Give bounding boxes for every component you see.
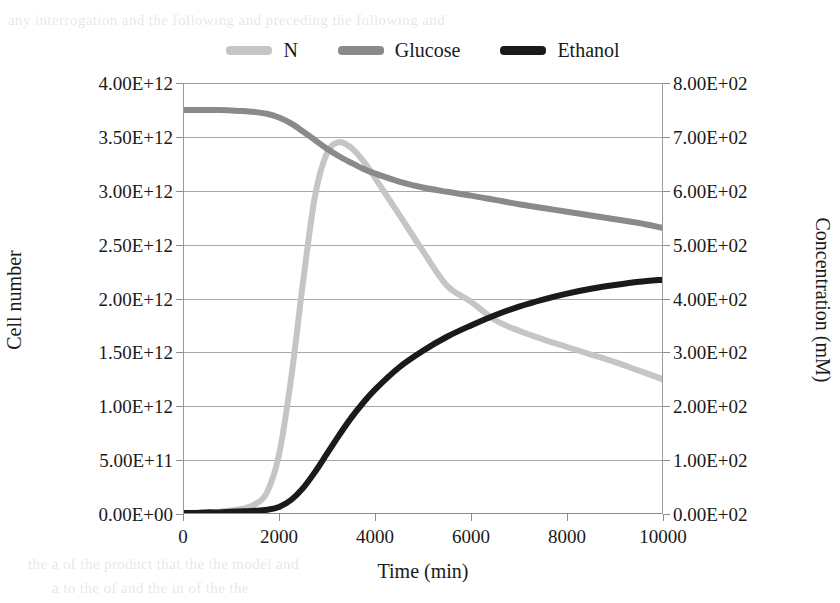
x-axis-tick	[471, 514, 472, 521]
y-axis-right-tick-label: 7.00E+02	[673, 128, 803, 147]
y-axis-left-tick-label: 1.00E+12	[53, 397, 173, 416]
y-axis-left-title: Cell number	[3, 250, 26, 349]
y-axis-right-tick	[663, 514, 670, 515]
y-axis-left-tick	[176, 245, 183, 246]
x-axis-tick	[183, 514, 184, 521]
x-axis-title: Time (min)	[183, 560, 663, 583]
y-axis-left-tick	[176, 191, 183, 192]
x-axis-tick	[375, 514, 376, 521]
x-axis-tick-label: 0	[138, 527, 228, 546]
y-axis-left-tick-label: 4.00E+12	[53, 74, 173, 93]
y-axis-left-tick-label: 3.50E+12	[53, 128, 173, 147]
legend-item-glucose[interactable]: Glucose	[338, 40, 461, 60]
y-axis-left-tick	[176, 514, 183, 515]
y-axis-left-tick	[176, 137, 183, 138]
series-curves	[183, 83, 663, 514]
y-axis-right-tick	[663, 245, 670, 246]
plot-area	[183, 83, 663, 514]
x-axis-tick-label: 8000	[522, 527, 612, 546]
y-axis-left-tick-label: 1.50E+12	[53, 343, 173, 362]
legend-swatch-glucose	[338, 46, 384, 55]
series-line-n	[183, 142, 663, 513]
y-axis-right-tick-label: 0.00E+02	[673, 505, 803, 524]
page-showthrough-top: any interrogation and the following and …	[8, 12, 445, 29]
legend-swatch-ethanol	[500, 46, 546, 55]
y-axis-left-tick-label: 5.00E+11	[53, 451, 173, 470]
y-axis-left-tick-label: 3.00E+12	[53, 182, 173, 201]
y-axis-left-tick	[176, 352, 183, 353]
y-axis-right-tick-label: 6.00E+02	[673, 182, 803, 201]
y-axis-right-tick-label: 8.00E+02	[673, 74, 803, 93]
y-axis-right-tick	[663, 83, 670, 84]
y-axis-left-tick-label: 0.00E+00	[53, 505, 173, 524]
y-axis-left-tick	[176, 406, 183, 407]
legend-item-n[interactable]: N	[226, 40, 297, 60]
y-axis-right-tick	[663, 406, 670, 407]
y-axis-right-title: Concentration (mM)	[811, 218, 834, 383]
y-axis-right-tick	[663, 299, 670, 300]
chart-legend: NGlucoseEthanol	[183, 36, 663, 64]
x-axis-tick	[279, 514, 280, 521]
y-axis-right-tick-label: 3.00E+02	[673, 343, 803, 362]
y-axis-right-tick	[663, 352, 670, 353]
y-axis-left-tick-label: 2.00E+12	[53, 290, 173, 309]
legend-label-n: N	[283, 40, 297, 60]
y-axis-right-tick	[663, 460, 670, 461]
series-line-ethanol	[183, 280, 663, 513]
legend-label-glucose: Glucose	[395, 40, 461, 60]
y-axis-right-tick-label: 1.00E+02	[673, 451, 803, 470]
y-axis-right-tick-label: 5.00E+02	[673, 236, 803, 255]
y-axis-left-tick-label: 2.50E+12	[53, 236, 173, 255]
legend-swatch-n	[226, 46, 272, 55]
x-axis-tick-label: 2000	[234, 527, 324, 546]
series-line-glucose	[183, 110, 663, 228]
y-axis-right-tick	[663, 191, 670, 192]
y-axis-left-tick	[176, 299, 183, 300]
y-axis-right-tick-label: 4.00E+02	[673, 290, 803, 309]
y-axis-left-tick	[176, 83, 183, 84]
x-axis-tick-label: 6000	[426, 527, 516, 546]
x-axis-tick-label: 10000	[618, 527, 708, 546]
legend-item-ethanol[interactable]: Ethanol	[500, 40, 619, 60]
chart-figure: any interrogation and the following and …	[0, 0, 840, 603]
y-axis-right-tick	[663, 137, 670, 138]
x-axis-tick-label: 4000	[330, 527, 420, 546]
x-axis-tick	[567, 514, 568, 521]
y-axis-left-tick	[176, 460, 183, 461]
legend-label-ethanol: Ethanol	[557, 40, 619, 60]
y-axis-right-tick-label: 2.00E+02	[673, 397, 803, 416]
x-axis-tick	[663, 514, 664, 521]
